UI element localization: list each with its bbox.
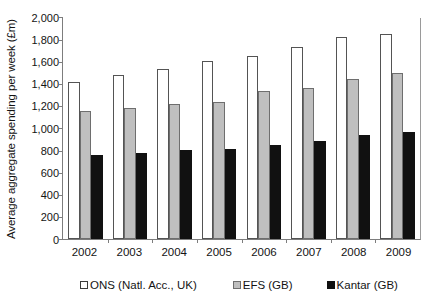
x-axis-tick-mark <box>197 239 198 243</box>
y-axis-tick-label: 800 <box>20 146 59 157</box>
bar <box>91 155 103 239</box>
bar-group <box>63 18 108 239</box>
legend-item[interactable]: Kantar (GB) <box>327 279 398 291</box>
y-axis-tick-mark <box>59 195 63 196</box>
plot-area <box>62 18 421 240</box>
x-axis-tick-mark <box>331 239 332 243</box>
bar <box>258 91 270 239</box>
y-axis-tick-mark <box>59 239 63 240</box>
x-axis-tick-mark <box>108 239 109 243</box>
x-axis-tick-labels: 20022003200420052006200720082009 <box>62 244 421 262</box>
legend-item-label: ONS (Natl. Acc., UK) <box>90 279 197 291</box>
x-axis-tick-mark <box>286 239 287 243</box>
bar <box>380 34 392 239</box>
bar-group <box>197 18 242 239</box>
x-axis-tick-label: 2008 <box>331 244 376 262</box>
y-axis-tick-label: 1,200 <box>20 101 59 112</box>
y-axis-tick-label: 200 <box>20 212 59 223</box>
bar <box>68 82 80 239</box>
legend-item-label: EFS (GB) <box>243 279 293 291</box>
y-axis-tick-mark <box>59 151 63 152</box>
bar-group <box>152 18 197 239</box>
bar <box>157 69 169 239</box>
bar <box>169 104 181 239</box>
bar <box>392 73 404 239</box>
bar <box>180 150 192 239</box>
bar-group <box>108 18 153 239</box>
y-axis-tick-label: 1,600 <box>20 57 59 68</box>
y-axis-tick-mark <box>59 128 63 129</box>
y-axis-tick-label: 1,400 <box>20 79 59 90</box>
y-axis-tick-mark <box>59 62 63 63</box>
x-axis-tick-label: 2009 <box>376 244 421 262</box>
bar <box>291 47 303 239</box>
bar-group <box>242 18 287 239</box>
x-axis-tick-label: 2007 <box>286 244 331 262</box>
x-axis-tick-label: 2004 <box>152 244 197 262</box>
legend-swatch-icon <box>233 281 241 289</box>
bar <box>270 145 282 239</box>
bar-group <box>286 18 331 239</box>
bar <box>336 37 348 239</box>
y-axis-tick-mark <box>59 173 63 174</box>
bar <box>359 135 371 239</box>
y-axis-tick-mark <box>59 106 63 107</box>
y-axis-tick-label: 1,000 <box>20 124 59 135</box>
y-axis-title-text: Average aggregate spending per week (£m) <box>5 19 17 239</box>
x-axis-tick-label: 2003 <box>107 244 152 262</box>
bar <box>136 153 148 239</box>
y-axis-tick-label: 2,000 <box>20 13 59 24</box>
bar-group <box>375 18 420 239</box>
x-axis-tick-label: 2002 <box>62 244 107 262</box>
x-axis-tick-label: 2006 <box>242 244 287 262</box>
chart-legend: ONS (Natl. Acc., UK)EFS (GB)Kantar (GB) <box>62 275 417 295</box>
bar-groups <box>63 18 420 239</box>
bar <box>403 132 415 239</box>
x-axis-tick-label: 2005 <box>197 244 242 262</box>
y-axis-tick-mark <box>59 84 63 85</box>
bar <box>314 141 326 239</box>
y-axis-title: Average aggregate spending per week (£m) <box>0 0 22 258</box>
bar-group <box>331 18 376 239</box>
bar <box>247 56 259 239</box>
legend-item[interactable]: ONS (Natl. Acc., UK) <box>80 279 197 291</box>
y-axis-tick-label: 0 <box>20 235 59 246</box>
legend-swatch-icon <box>327 281 335 289</box>
bar <box>124 108 136 239</box>
bar <box>303 88 315 239</box>
bar <box>213 102 225 239</box>
bar <box>202 61 214 239</box>
x-axis-tick-mark <box>242 239 243 243</box>
bar <box>225 149 237 239</box>
legend-item-label: Kantar (GB) <box>337 279 398 291</box>
bar <box>113 75 125 239</box>
y-axis-tick-label: 1,800 <box>20 35 59 46</box>
y-axis-tick-mark <box>59 17 63 18</box>
x-axis-tick-mark <box>152 239 153 243</box>
y-axis-tick-labels: 02004006008001,0001,2001,4001,6001,8002,… <box>20 18 59 240</box>
y-axis-tick-mark <box>59 40 63 41</box>
y-axis-tick-mark <box>59 217 63 218</box>
bar <box>80 111 92 239</box>
legend-swatch-icon <box>80 281 88 289</box>
bar <box>347 79 359 239</box>
x-axis-tick-mark <box>375 239 376 243</box>
legend-item[interactable]: EFS (GB) <box>233 279 293 291</box>
bar-chart: Average aggregate spending per week (£m)… <box>0 0 429 305</box>
y-axis-tick-label: 400 <box>20 190 59 201</box>
y-axis-tick-label: 600 <box>20 168 59 179</box>
